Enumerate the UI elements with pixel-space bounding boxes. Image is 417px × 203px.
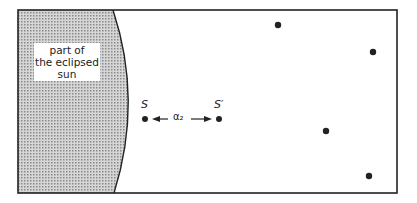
star-s-dot: [142, 116, 148, 122]
sun-label-line-3: sun: [34, 68, 100, 80]
star-dot: [366, 173, 372, 179]
diagram-canvas: [0, 0, 417, 203]
arrowhead-right-icon: [204, 116, 212, 122]
separation-label: α₂: [172, 111, 185, 122]
star-s-label: S: [141, 98, 148, 111]
sun-label-line-1: part of: [34, 44, 100, 56]
arrowhead-left-icon: [152, 116, 160, 122]
sun-label-line-2: the eclipsed: [34, 56, 100, 68]
sun-label: part of the eclipsed sun: [34, 43, 100, 81]
star-s-prime-dot: [216, 116, 222, 122]
eclipsed-sun-region: [18, 10, 128, 193]
star-s-prime-label: S′: [214, 98, 223, 111]
star-dot: [370, 49, 376, 55]
star-dot: [323, 128, 329, 134]
star-dot: [275, 22, 281, 28]
